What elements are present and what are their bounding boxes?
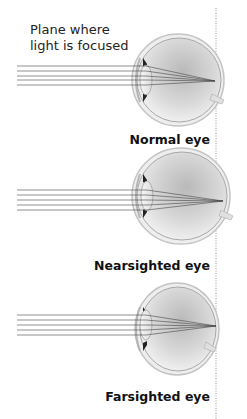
nearsighted-eye-illustration (17, 148, 233, 244)
caption-line-1: Plane where (30, 22, 128, 38)
normal-eye-label: Normal eye (130, 132, 210, 147)
eye-diagram (0, 0, 247, 419)
farsighted-eye-illustration (17, 283, 219, 375)
farsighted-eye-label: Farsighted eye (105, 389, 210, 404)
nearsighted-eye-label: Nearsighted eye (94, 258, 210, 273)
focal-plane-caption: Plane where light is focused (30, 22, 128, 54)
caption-line-2: light is focused (30, 38, 128, 54)
